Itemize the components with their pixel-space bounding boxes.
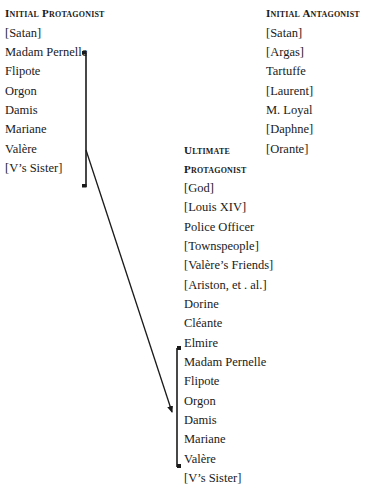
list-item: Mariane [5, 122, 47, 136]
list-item: [Daphne] [266, 122, 313, 136]
list-item: Flipote [184, 374, 219, 388]
list-item: [Satan] [266, 26, 302, 40]
list-item: [Townspeople] [184, 239, 259, 253]
transition-arrow [86, 150, 172, 412]
list-item: M. Loyal [266, 103, 313, 117]
list-item: [Argas] [266, 45, 304, 59]
list-item: [Orante] [266, 142, 308, 156]
list-item: Madam Pernelle [184, 355, 266, 369]
list-item: [God] [184, 181, 214, 195]
list-item: [Laurent] [266, 84, 313, 98]
list-item: Police Officer [184, 220, 254, 234]
list-item: [V’s Sister] [184, 471, 241, 485]
list-item: Flipote [5, 64, 40, 78]
list-item: Orgon [184, 394, 216, 408]
list-item: Elmire [184, 336, 218, 350]
list-item: [Louis XIV] [184, 200, 246, 214]
right-bracket [177, 346, 181, 468]
list-item: Valère [184, 452, 216, 466]
list-item: Orgon [5, 84, 37, 98]
list-item: Cléante [184, 316, 222, 330]
list-item: Valère [5, 142, 37, 156]
left-bracket [82, 51, 87, 188]
list-item: Damis [5, 103, 38, 117]
list-item: [V’s Sister] [5, 161, 62, 175]
list-item: Madam Pernelle [5, 45, 87, 59]
ultimate-protagonist-heading-line2: Protagonist [184, 162, 247, 176]
list-item: Dorine [184, 297, 219, 311]
ultimate-protagonist-heading-line1: Ultimate [184, 143, 230, 157]
list-item: [Satan] [5, 26, 41, 40]
list-item: [Valère’s Friends] [184, 258, 273, 272]
list-item: Damis [184, 413, 217, 427]
list-item: Tartuffe [266, 64, 306, 78]
initial-protagonist-heading: Initial Protagonist [5, 6, 105, 20]
list-item: Mariane [184, 432, 226, 446]
list-item: [Ariston, et . al.] [184, 278, 267, 292]
initial-antagonist-heading: Initial Antagonist [266, 6, 360, 20]
